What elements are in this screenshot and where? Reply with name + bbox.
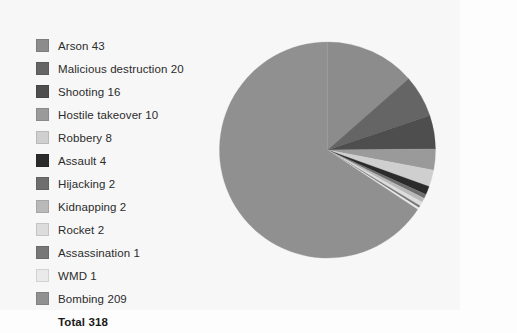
pie-chart-svg	[219, 41, 436, 259]
legend-swatch-icon	[36, 85, 49, 98]
legend-item[interactable]: Malicious destruction 20	[36, 57, 216, 80]
legend-swatch-icon	[36, 223, 49, 236]
legend-item[interactable]: Hostile takeover 10	[36, 103, 216, 126]
legend-item-label: Arson 43	[58, 40, 105, 52]
legend-item-label: Hostile takeover 10	[58, 109, 158, 121]
legend-swatch-icon	[36, 131, 49, 144]
legend-item[interactable]: Kidnapping 2	[36, 195, 216, 218]
legend-swatch-icon	[36, 108, 49, 121]
legend-item-label: Malicious destruction 20	[58, 63, 184, 75]
legend-item-label: Kidnapping 2	[58, 201, 126, 213]
legend-item[interactable]: Arson 43	[36, 34, 216, 57]
legend-swatch-icon	[36, 269, 49, 282]
legend-swatch-icon	[36, 177, 49, 190]
legend-item-label: WMD 1	[58, 270, 97, 282]
legend-swatch-icon	[36, 200, 49, 213]
legend-item[interactable]: Rocket 2	[36, 218, 216, 241]
chart-legend: Arson 43Malicious destruction 20Shooting…	[36, 34, 216, 333]
legend-item-label: Hijacking 2	[58, 178, 115, 190]
pie-chart	[219, 41, 436, 259]
legend-item-label: Robbery 8	[58, 132, 112, 144]
legend-total-label: Total 318	[58, 316, 108, 328]
legend-total-row: Total 318	[36, 310, 216, 333]
legend-item-label: Shooting 16	[58, 86, 121, 98]
legend-item[interactable]: Bombing 209	[36, 287, 216, 310]
legend-swatch-icon	[36, 154, 49, 167]
legend-item-label: Assassination 1	[58, 247, 140, 259]
legend-item[interactable]: Robbery 8	[36, 126, 216, 149]
legend-item-label: Assault 4	[58, 155, 106, 167]
legend-item[interactable]: Hijacking 2	[36, 172, 216, 195]
legend-item[interactable]: WMD 1	[36, 264, 216, 287]
legend-item-label: Bombing 209	[58, 293, 127, 305]
legend-swatch-icon	[36, 246, 49, 259]
legend-item[interactable]: Assault 4	[36, 149, 216, 172]
legend-swatch-icon	[36, 39, 49, 52]
chart-page: Arson 43Malicious destruction 20Shooting…	[0, 0, 517, 333]
legend-item[interactable]: Assassination 1	[36, 241, 216, 264]
legend-item-label: Rocket 2	[58, 224, 104, 236]
legend-swatch-icon	[36, 62, 49, 75]
legend-swatch-icon	[36, 292, 49, 305]
legend-item[interactable]: Shooting 16	[36, 80, 216, 103]
